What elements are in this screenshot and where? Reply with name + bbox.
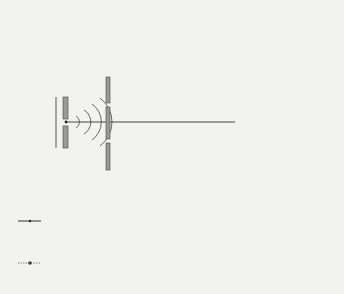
source-apparatus <box>56 97 68 148</box>
double-slit-diagram <box>0 0 344 294</box>
legend <box>18 220 41 265</box>
legend-destructive <box>18 261 41 265</box>
double-slit-barrier <box>106 77 110 170</box>
screen <box>235 27 289 219</box>
legend-constructive <box>18 220 41 222</box>
